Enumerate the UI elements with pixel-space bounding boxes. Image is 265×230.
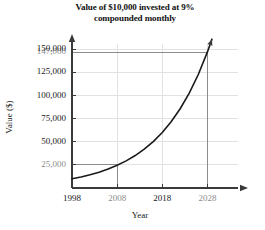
y-axis-tick-label: 25,000	[22, 159, 66, 169]
data-curve	[72, 39, 212, 179]
curve-arrowhead	[207, 39, 212, 46]
y-axis-tick-label: 125,000	[22, 66, 66, 76]
x-axis-tick-label: 2028	[187, 193, 227, 203]
x-axis-title: Year	[115, 210, 165, 220]
y-axis-title: Value ($)	[4, 87, 14, 147]
y-axis-tick-label: 100,000	[22, 90, 66, 100]
y-axis-tick-label: 50,000	[22, 136, 66, 146]
exponential-growth-curve	[72, 39, 212, 179]
y-axis-tick-label: 75,000	[22, 113, 66, 123]
y-axis-tick-label: 150,000	[22, 43, 66, 53]
x-axis-tick-label: 1998	[52, 193, 92, 203]
x-axis-tick-label: 2018	[142, 193, 182, 203]
gridlines	[72, 44, 238, 188]
chart-figure: Value of $10,000 invested at 9% compound…	[0, 0, 265, 230]
y-axis-arrowhead	[69, 34, 75, 42]
axes	[69, 34, 248, 191]
x-axis-tick-label: 2008	[97, 193, 137, 203]
x-axis-arrowhead	[240, 185, 248, 191]
